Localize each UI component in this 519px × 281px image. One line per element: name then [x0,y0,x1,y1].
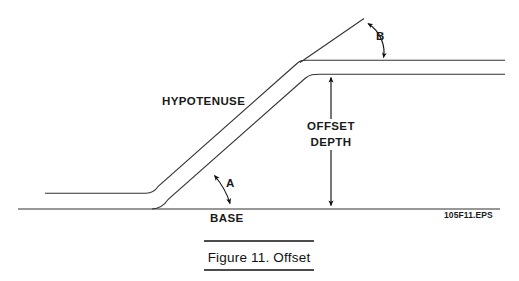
diagram-canvas: HYPOTENUSE BASE OFFSET DEPTH A B 105F11.… [0,0,519,281]
angle-b-label: B [376,30,384,42]
angle-a-label: A [226,177,234,189]
hypotenuse-extension-line [300,19,364,63]
offset-depth-label-line2: DEPTH [311,136,352,148]
figure-caption: Figure 11. Offset [208,250,311,265]
eps-filename-label: 105F11.EPS [444,210,493,220]
base-label: BASE [210,212,244,224]
offset-depth-label-line1: OFFSET [307,120,355,132]
figure-offset-diagram: HYPOTENUSE BASE OFFSET DEPTH A B 105F11.… [0,0,519,281]
hypotenuse-label: HYPOTENUSE [162,95,245,107]
upper-offset-profile-line [45,60,505,193]
